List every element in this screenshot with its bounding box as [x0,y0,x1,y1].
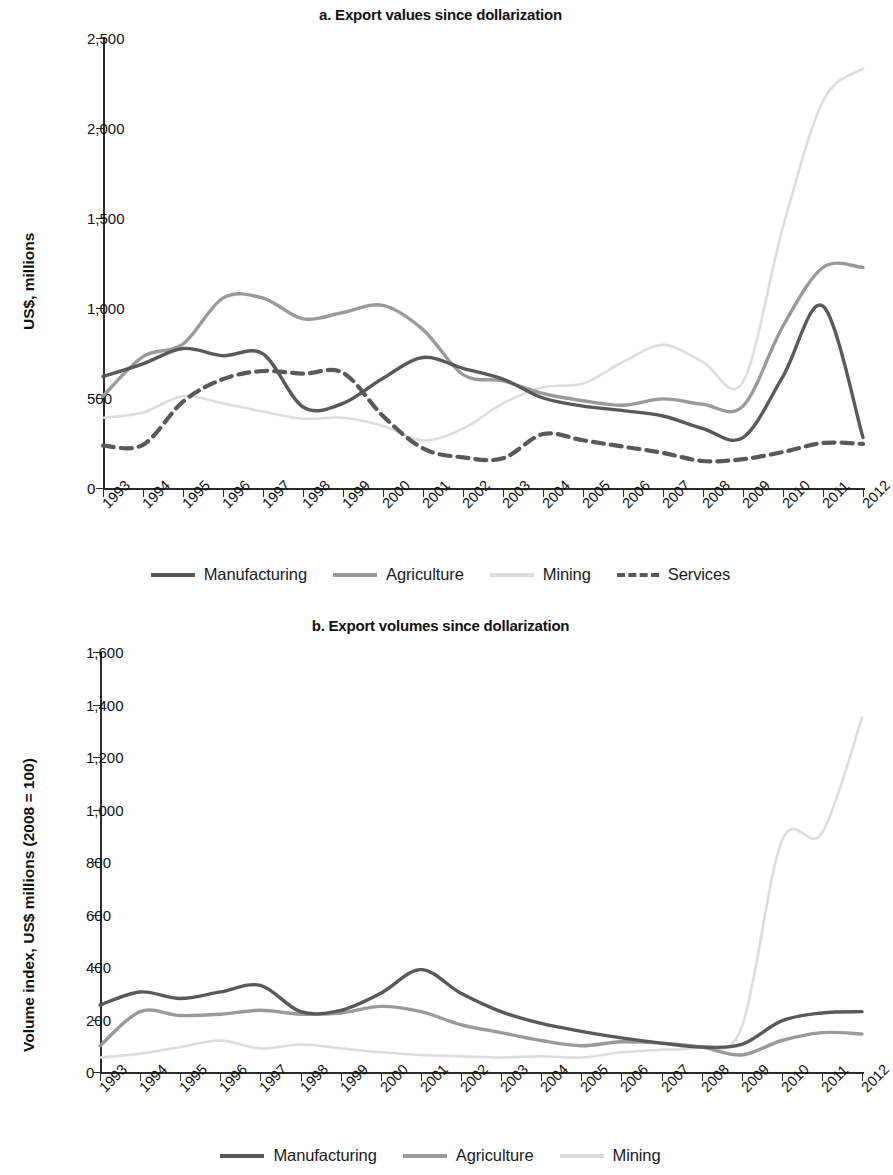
y-axis-tick-label: 0 [86,1064,89,1081]
legend-item-services[interactable]: Services [617,565,730,584]
series-layer [103,38,865,490]
chart-b-plot-area: 02004006008001,0001,2001,4001,6001993199… [100,652,862,1072]
y-axis-tick-label: 1,000 [87,300,92,317]
chart-b-y-axis-label: Volume index, US$ millions (2008 = 100) [20,758,38,1052]
legend-item-mining[interactable]: Mining [560,1146,661,1165]
legend-item-label: Agriculture [386,565,464,584]
legend-item-manufacturing[interactable]: Manufacturing [151,565,307,584]
legend-line-swatch-icon [617,573,659,577]
legend-item-mining[interactable]: Mining [490,565,591,584]
series-line-agriculture [100,1006,862,1055]
legend-item-label: Mining [613,1146,661,1165]
legend-item-agriculture[interactable]: Agriculture [403,1146,534,1165]
y-axis-tick-label: 2,500 [87,30,92,47]
series-layer [100,652,864,1074]
legend-item-label: Agriculture [456,1146,534,1165]
series-line-manufacturing [103,305,863,440]
chart-b-title: b. Export volumes since dollarization [0,617,881,634]
y-axis-tick-label: 1,400 [86,696,89,713]
legend-line-swatch-icon [333,573,377,577]
legend-item-manufacturing[interactable]: Manufacturing [220,1146,376,1165]
legend-line-swatch-icon [403,1154,447,1158]
y-axis-tick-label: 1,600 [86,644,89,661]
y-axis-tick-label: 400 [86,959,89,976]
chart-a-title: a. Export values since dollarization [0,6,881,23]
legend-item-agriculture[interactable]: Agriculture [333,565,464,584]
chart-a-plot-area: 05001,0001,5002,0002,5001993199419951996… [103,38,863,488]
chart-panel-a: a. Export values since dollarization US$… [0,0,881,600]
y-axis-tick-label: 1,000 [86,801,89,818]
y-axis-tick-label: 500 [87,390,92,407]
legend-line-swatch-icon [220,1154,264,1158]
y-axis-tick-label: 800 [86,854,89,871]
legend-item-label: Mining [543,565,591,584]
legend-line-swatch-icon [151,573,195,577]
y-axis-tick [96,488,103,489]
legend-item-label: Manufacturing [273,1146,376,1165]
y-axis-tick-label: 200 [86,1011,89,1028]
chart-a-legend: ManufacturingAgricultureMiningServices [0,565,881,584]
y-axis-tick-label: 0 [87,480,92,497]
legend-item-label: Services [668,565,730,584]
y-axis-tick-label: 1,200 [86,749,89,766]
chart-a-y-axis-label: US$, millions [20,233,38,330]
y-axis-tick-label: 600 [86,906,89,923]
y-axis-tick-label: 1,500 [87,210,92,227]
chart-b-legend: ManufacturingAgricultureMining [0,1146,881,1165]
series-line-agriculture [103,263,863,412]
series-line-mining [103,69,863,441]
series-line-mining [100,718,862,1058]
legend-line-swatch-icon [490,573,534,577]
y-axis-tick [93,1072,100,1073]
y-axis-tick-label: 2,000 [87,120,92,137]
legend-item-label: Manufacturing [204,565,307,584]
legend-line-swatch-icon [560,1154,604,1158]
